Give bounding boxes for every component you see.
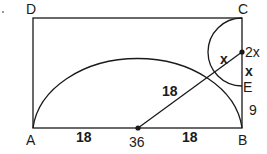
- label-center-value: 36: [129, 134, 145, 150]
- large-semicircle-arc: [33, 59, 242, 128]
- label-ao-length: 18: [76, 129, 92, 145]
- label-x-line: x: [220, 51, 228, 67]
- label-radius-length: 18: [162, 83, 178, 99]
- label-c: C: [238, 1, 248, 17]
- center-point-o: [135, 125, 140, 130]
- label-x-side: x: [245, 63, 253, 79]
- stray-dot: [2, 11, 4, 13]
- geometry-diagram: D C A B E 18 18 18 36 9 x x 2x: [0, 0, 267, 154]
- label-d: D: [26, 1, 36, 17]
- label-ob-length: 18: [182, 129, 198, 145]
- label-b: B: [238, 132, 247, 148]
- label-a: A: [26, 132, 36, 148]
- label-2x: 2x: [245, 44, 260, 60]
- label-e: E: [243, 79, 252, 95]
- label-be-length: 9: [249, 102, 257, 118]
- rectangle-abcd: [33, 18, 242, 128]
- point-on-bc: [239, 49, 244, 54]
